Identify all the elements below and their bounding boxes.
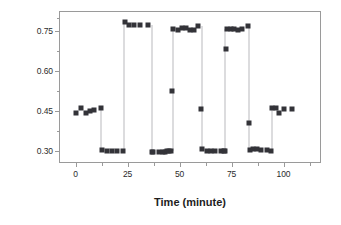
x-tick-minor xyxy=(102,163,103,166)
connector-line xyxy=(123,22,124,150)
y-tick-label: 0.30 xyxy=(37,146,53,156)
y-tick-minor xyxy=(57,18,60,19)
y-tick-minor xyxy=(57,131,60,132)
data-point xyxy=(146,23,151,28)
data-point xyxy=(138,23,143,28)
data-point xyxy=(98,105,103,110)
data-point xyxy=(169,149,174,154)
data-point xyxy=(131,22,136,27)
data-point xyxy=(170,89,175,94)
x-tick-minor xyxy=(258,163,259,166)
y-tick-mark xyxy=(55,31,59,32)
data-point xyxy=(239,27,244,32)
data-point xyxy=(78,105,83,110)
data-point xyxy=(247,121,252,126)
data-point xyxy=(199,106,204,111)
data-point xyxy=(269,149,274,154)
x-tick-mark xyxy=(180,163,181,167)
connector-line xyxy=(201,26,202,149)
connector-line xyxy=(271,108,272,151)
data-point xyxy=(289,106,294,111)
y-tick-mark xyxy=(55,111,59,112)
y-tick-mark xyxy=(55,71,59,72)
data-point xyxy=(223,148,228,153)
chart-figure: 0.300.450.600.75 0255075100 Time (minute… xyxy=(0,0,341,225)
y-tick-mark xyxy=(55,151,59,152)
y-tick-minor xyxy=(57,91,60,92)
data-point xyxy=(196,24,201,29)
y-tick-label: 0.75 xyxy=(37,26,53,36)
x-tick-minor xyxy=(206,163,207,166)
data-point xyxy=(121,148,126,153)
data-point xyxy=(92,108,97,113)
x-tick-mark xyxy=(232,163,233,167)
x-tick-mark xyxy=(284,163,285,167)
x-axis-title: Time (minute) xyxy=(59,196,321,208)
data-point xyxy=(115,149,120,154)
x-tick-mark xyxy=(128,163,129,167)
data-point xyxy=(277,110,282,115)
y-tick-label: 0.45 xyxy=(37,106,53,116)
data-point xyxy=(281,106,286,111)
y-tick-minor xyxy=(57,51,60,52)
y-tick-label: 0.60 xyxy=(37,66,53,76)
data-point xyxy=(212,149,217,154)
plot-area: 0.300.450.600.75 0255075100 xyxy=(59,11,321,163)
data-point xyxy=(73,110,78,115)
data-point xyxy=(224,47,229,52)
x-tick-label: 75 xyxy=(227,169,236,179)
x-tick-mark xyxy=(76,163,77,167)
x-tick-label: 50 xyxy=(175,169,184,179)
data-point xyxy=(150,149,155,154)
x-tick-label: 25 xyxy=(123,169,132,179)
x-tick-minor xyxy=(310,163,311,166)
connector-line xyxy=(101,108,102,150)
x-tick-minor xyxy=(154,163,155,166)
connector-line xyxy=(248,26,249,149)
x-tick-label: 100 xyxy=(277,169,291,179)
data-point xyxy=(258,147,263,152)
data-point xyxy=(246,24,251,29)
x-tick-label: 0 xyxy=(73,169,78,179)
connector-line xyxy=(151,25,152,151)
